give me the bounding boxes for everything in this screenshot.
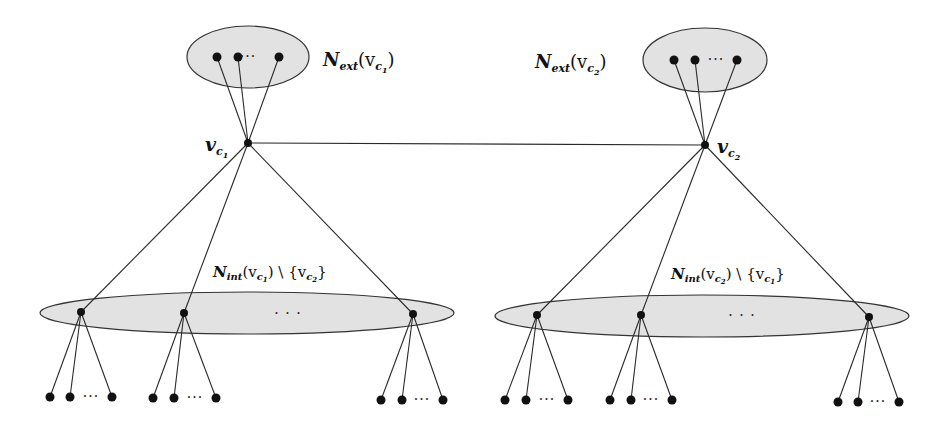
node-int1 bbox=[77, 308, 85, 316]
node-leaf bbox=[149, 394, 158, 403]
node-leaf bbox=[627, 396, 636, 405]
leaf-ellipsis: ··· bbox=[539, 391, 555, 407]
neighborhood-diagram: ··· ··· · · · · · · ··· ··· ··· ··· ··· … bbox=[0, 0, 949, 431]
leaf-ellipsis: ··· bbox=[870, 393, 886, 409]
edge-vc2-int bbox=[705, 145, 869, 317]
node-leaf bbox=[834, 398, 843, 407]
edge-vc1-int bbox=[81, 143, 248, 312]
label-vc1: vc1 bbox=[205, 133, 228, 160]
node-leaf bbox=[170, 394, 179, 403]
node-leaf bbox=[895, 398, 904, 407]
node-leaf bbox=[377, 396, 386, 405]
int2-ellipsis: · · · bbox=[728, 307, 755, 323]
label-vc2: vc2 bbox=[717, 135, 741, 162]
node-leaf bbox=[522, 396, 531, 405]
edge-vc1-int bbox=[184, 143, 248, 313]
node-vc2 bbox=[701, 141, 709, 149]
label-ext-vc1: Next(vc1) bbox=[322, 49, 395, 75]
ellipsis-markers: ··· ··· · · · · · · ··· ··· ··· ··· ··· … bbox=[83, 48, 886, 409]
edge-leaf bbox=[413, 314, 443, 400]
node-leaf bbox=[668, 396, 677, 405]
node-leaf bbox=[398, 396, 407, 405]
node-leaf bbox=[439, 396, 448, 405]
leaf-ellipsis: ··· bbox=[187, 389, 203, 405]
int1-ellipsis: · · · bbox=[274, 305, 301, 321]
node-ext2 bbox=[733, 56, 742, 65]
node-int2 bbox=[533, 311, 541, 319]
node-leaf bbox=[564, 396, 573, 405]
ext-set-vc2-ellipse bbox=[643, 28, 767, 92]
node-ext2 bbox=[670, 56, 679, 65]
edge-leaf bbox=[869, 317, 899, 402]
edge-leaf bbox=[505, 315, 537, 400]
node-int1 bbox=[180, 309, 188, 317]
ext2-ellipsis: ··· bbox=[708, 51, 724, 67]
label-int-vc2: Nint(vc2) \ {vc1} bbox=[670, 265, 785, 286]
label-ext-vc2: Next(vc2) bbox=[534, 51, 607, 77]
node-vc1 bbox=[244, 139, 252, 147]
node-int1 bbox=[409, 310, 417, 318]
edge-leaf bbox=[50, 312, 81, 397]
node-ext2 bbox=[691, 56, 700, 65]
node-leaf bbox=[66, 393, 75, 402]
node-leaf bbox=[108, 393, 117, 402]
node-ext1 bbox=[213, 53, 222, 62]
node-int2 bbox=[637, 311, 645, 319]
edge-vc2-int bbox=[537, 145, 705, 315]
leaf-ellipsis: ··· bbox=[83, 388, 99, 404]
int-set-vc1-ellipse bbox=[40, 292, 454, 334]
nodes bbox=[46, 53, 904, 407]
edge-vc1-vc2 bbox=[248, 143, 705, 145]
int-set-vc2-ellipse bbox=[495, 295, 909, 337]
node-int2 bbox=[865, 313, 873, 321]
node-leaf bbox=[854, 398, 863, 407]
edges bbox=[50, 57, 899, 402]
leaf-ellipsis: ··· bbox=[643, 391, 659, 407]
node-leaf bbox=[46, 393, 55, 402]
label-int-vc1: Nint(vc1) \ {vc2} bbox=[212, 263, 327, 284]
edge-vc1-int bbox=[248, 143, 413, 314]
ext1-ellipsis: ··· bbox=[240, 48, 256, 64]
node-ext1 bbox=[275, 53, 284, 62]
leaf-ellipsis: ··· bbox=[414, 391, 430, 407]
node-leaf bbox=[606, 396, 615, 405]
node-leaf bbox=[501, 396, 510, 405]
node-leaf bbox=[212, 394, 221, 403]
edge-vc2-int bbox=[641, 145, 705, 315]
